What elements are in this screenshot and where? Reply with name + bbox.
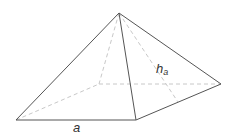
edge-apex-back-right — [119, 13, 221, 84]
pyramid-diagram: ha a — [0, 0, 233, 135]
edge-apex-front-left — [16, 13, 119, 120]
hidden-edge-base-left-back — [16, 84, 99, 120]
base-edge-label: a — [73, 120, 80, 135]
slant-height-label-sub: a — [163, 67, 168, 77]
edge-apex-front-right — [119, 13, 136, 120]
slant-height-line — [119, 13, 178, 102]
slant-height-label: ha — [156, 61, 168, 77]
edge-base-right — [136, 84, 221, 120]
slant-height-label-main: h — [156, 61, 163, 76]
